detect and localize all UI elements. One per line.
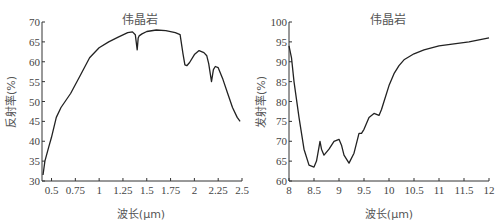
reflectance-plot: 伟晶岩 波长(μm) 反射率(%) 3035404550556065700.50… <box>0 0 252 224</box>
x-tick-label: 2 <box>192 184 198 196</box>
y-tick-label: 65 <box>276 155 288 167</box>
y-tick-label: 100 <box>271 16 288 28</box>
x-tick-label: 12 <box>484 184 495 196</box>
x-tick-label: 0.5 <box>45 184 59 196</box>
y-tick-label: 70 <box>276 135 288 147</box>
emissivity-plot: 伟晶岩 波长(μm) 发射率(%) 606570758085909510088.… <box>252 0 504 224</box>
axis-lines <box>42 22 242 181</box>
x-tick-label: 1.25 <box>113 184 133 196</box>
x-tick-label: 1.5 <box>140 184 154 196</box>
x-axis-label: 波长(μm) <box>365 208 413 221</box>
y-axis-label: 发射率(%) <box>254 76 268 128</box>
y-axis-label: 反射率(%) <box>4 76 18 128</box>
x-tick-label: 10.5 <box>404 184 424 196</box>
y-tick-label: 85 <box>276 76 288 88</box>
x-tick-label: 2.25 <box>209 184 229 196</box>
y-tick-label: 60 <box>29 56 41 68</box>
y-tick-label: 75 <box>276 115 288 127</box>
x-tick-label: 9.5 <box>357 184 371 196</box>
y-tick-label: 80 <box>276 96 288 108</box>
y-tick-label: 40 <box>29 135 41 147</box>
chart-title: 伟晶岩 <box>370 12 406 27</box>
emissivity-curve <box>289 38 489 167</box>
x-tick-label: 1.75 <box>161 184 181 196</box>
x-tick-label: 2.5 <box>235 184 249 196</box>
x-tick-label: 1 <box>96 184 102 196</box>
x-tick-label: 8.5 <box>307 184 321 196</box>
reflectance-curve <box>43 30 240 175</box>
y-tick-label: 30 <box>29 175 41 187</box>
x-tick-label: 11.5 <box>455 184 474 196</box>
y-tick-label: 90 <box>276 56 288 68</box>
x-axis-label: 波长(μm) <box>117 208 165 221</box>
y-tick-label: 35 <box>29 155 41 167</box>
y-tick-label: 55 <box>29 76 41 88</box>
y-tick-label: 45 <box>29 115 41 127</box>
x-tick-label: 11 <box>434 184 445 196</box>
x-tick-label: 0.75 <box>66 184 86 196</box>
x-tick-label: 8 <box>286 184 292 196</box>
emissivity-chart: 伟晶岩 波长(μm) 发射率(%) 606570758085909510088.… <box>252 0 504 224</box>
x-tick-label: 9 <box>336 184 342 196</box>
chart-title: 伟晶岩 <box>122 12 158 27</box>
y-tick-label: 65 <box>29 36 41 48</box>
x-tick-label: 10 <box>384 184 396 196</box>
y-tick-label: 70 <box>29 16 41 28</box>
axis-lines <box>289 22 489 181</box>
y-tick-label: 50 <box>29 96 41 108</box>
reflectance-chart: 伟晶岩 波长(μm) 反射率(%) 3035404550556065700.50… <box>0 0 252 224</box>
y-tick-label: 95 <box>276 36 288 48</box>
